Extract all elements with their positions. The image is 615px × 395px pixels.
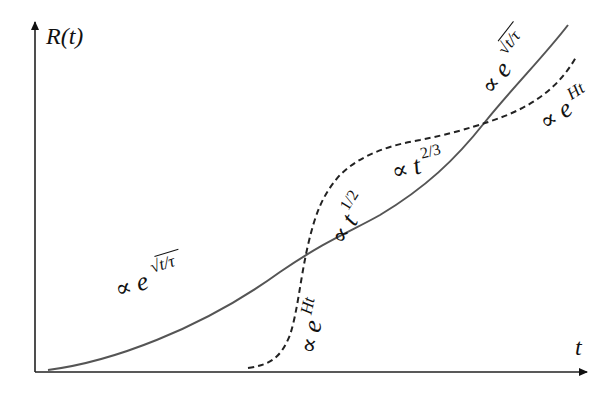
label-solid-early: ∝ e √t/τ [110, 249, 189, 304]
svg-text:√t/τ: √t/τ [148, 251, 178, 277]
label-dashed-radiation: ∝ t 1/2 [319, 187, 376, 250]
svg-text:e: e [132, 266, 152, 297]
label-solid-late: ∝ e √t/τ [469, 21, 541, 99]
svg-text:√t/τ: √t/τ [494, 26, 525, 58]
svg-text:2/3: 2/3 [418, 140, 442, 161]
svg-text:∝: ∝ [294, 335, 323, 356]
expansion-diagram: R(t) t ∝ e √t/τ ∝ e Ht ∝ t 1/2 ∝ t 2/3 ∝… [0, 0, 615, 395]
svg-text:∝: ∝ [389, 156, 411, 185]
label-dashed-inflation: ∝ e Ht [289, 294, 333, 356]
svg-text:Ht: Ht [296, 294, 319, 317]
svg-text:1/2: 1/2 [336, 187, 361, 213]
svg-text:∝: ∝ [112, 273, 135, 303]
svg-text:Ht: Ht [562, 78, 589, 104]
svg-text:e: e [297, 317, 328, 334]
y-axis-label: R(t) [45, 23, 83, 49]
dashed-curve [248, 57, 576, 368]
label-dashed-dark-energy: ∝ e Ht [531, 78, 596, 136]
label-dashed-matter: ∝ t 2/3 [387, 140, 446, 186]
x-axis-label: t [575, 334, 583, 360]
